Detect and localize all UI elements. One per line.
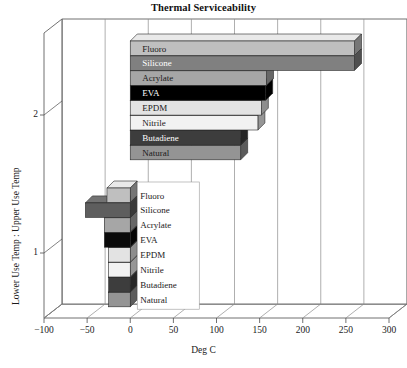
bar-lower-fluoro (107, 181, 137, 203)
bar-label-lower-fluoro: Fluoro (140, 192, 164, 201)
x-tick-label: 150 (240, 325, 280, 335)
x-tick-label: 200 (283, 325, 323, 335)
bar-label-upper-natural: Natural (142, 149, 169, 158)
bar-label-upper-nitrile: Nitrile (142, 119, 166, 128)
bar-label-lower-silicone: Silicone (140, 206, 170, 215)
bar-label-lower-acrylate: Acrylate (140, 221, 171, 230)
bar-label-upper-eva: EVA (142, 89, 159, 98)
x-tick-label: 300 (369, 325, 407, 335)
bar-label-upper-butadiene: Butadiene (142, 134, 179, 143)
bar-label-upper-fluoro: Fluoro (142, 45, 166, 54)
x-tick-label: 50 (153, 325, 193, 335)
bar-label-upper-acrylate: Acrylate (142, 74, 173, 83)
bar-label-lower-butadiene: Butadiene (140, 281, 177, 290)
y-tick-label: 1 (18, 247, 38, 257)
bar-label-lower-eva: EVA (140, 236, 157, 245)
bar-label-lower-nitrile: Nitrile (140, 266, 164, 275)
x-tick-label: −50 (67, 325, 107, 335)
chart-plot-area (0, 0, 407, 368)
x-tick-label: 0 (110, 325, 150, 335)
bar-label-upper-silicone: Silicone (142, 59, 172, 68)
x-tick-label: 100 (197, 325, 237, 335)
bar-label-lower-natural: Natural (140, 296, 167, 305)
y-tick-label: 2 (18, 109, 38, 119)
chart-container: Thermal Serviceability −100−500501001502… (0, 0, 407, 368)
y-axis-title: Lower Use Temp : Upper Use Temp (11, 167, 21, 305)
bar-label-upper-epdm: EPDM (142, 104, 167, 113)
x-tick-label: −100 (24, 325, 64, 335)
x-tick-label: 250 (326, 325, 366, 335)
x-axis-title: Deg C (0, 345, 407, 355)
bar-label-lower-epdm: EPDM (140, 251, 165, 260)
